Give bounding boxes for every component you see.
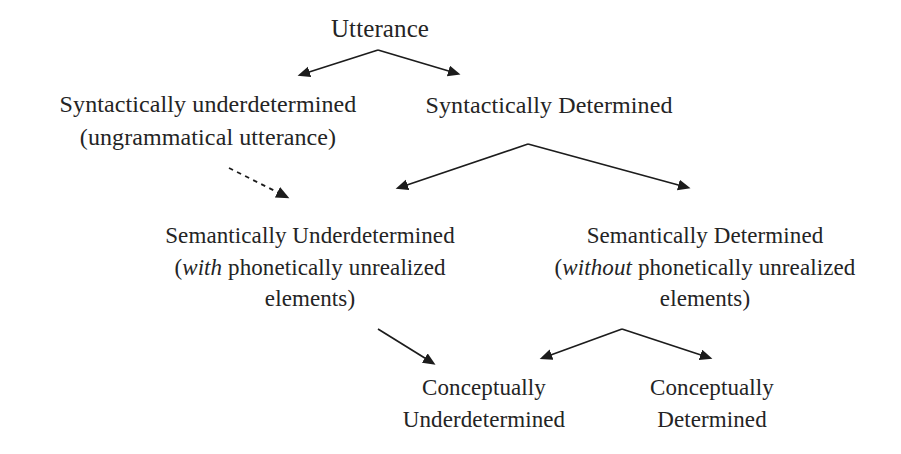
node-conceptually-underdetermined-line-2: Underdetermined — [384, 404, 584, 436]
node-utterance: Utterance — [310, 12, 450, 47]
node-semantically-underdetermined-line-2: (with phonetically unrealized — [140, 252, 480, 284]
diagram-canvas: Utterance Syntactically underdetermined … — [0, 0, 901, 454]
node-semantically-determined-line-2: (without phonetically unrealized — [535, 252, 875, 284]
node-syntactically-determined-line-1: Syntactically Determined — [398, 89, 700, 122]
node-syntactically-underdetermined: Syntactically underdetermined (ungrammat… — [18, 88, 398, 154]
node-conceptually-underdetermined-line-1: Conceptually — [384, 372, 584, 404]
node-semantically-underdetermined-line-1: Semantically Underdetermined — [140, 220, 480, 252]
edge-utterance-to-syntactically-underdetermined — [306, 50, 378, 73]
node-syntactically-underdetermined-line-2: (ungrammatical utterance) — [18, 121, 398, 154]
edge-syntactically-underdetermined-to-semantically-underdetermined — [229, 168, 281, 194]
edge-semantically-determined-to-conceptually-determined — [622, 329, 704, 356]
node-syntactically-determined: Syntactically Determined — [398, 89, 700, 122]
node-semantically-underdetermined-line-3: elements) — [140, 283, 480, 315]
emphasis-with: with — [182, 255, 222, 280]
node-semantically-underdetermined: Semantically Underdetermined (with phone… — [140, 220, 480, 315]
node-conceptually-underdetermined: Conceptually Underdetermined — [384, 372, 584, 435]
edge-syntactically-determined-to-semantically-underdetermined — [404, 144, 528, 186]
node-semantically-determined-line-1: Semantically Determined — [535, 220, 875, 252]
edge-semantically-underdetermined-to-conceptually-underdetermined — [378, 329, 428, 360]
node-semantically-determined-line-3: elements) — [535, 283, 875, 315]
line2-rest: phonetically unrealized — [632, 255, 855, 280]
node-conceptually-determined: Conceptually Determined — [612, 372, 812, 435]
node-utterance-line-1: Utterance — [310, 12, 450, 47]
edge-utterance-to-syntactically-determined — [378, 50, 452, 72]
edge-syntactically-determined-to-semantically-determined — [528, 144, 682, 186]
node-conceptually-determined-line-2: Determined — [612, 404, 812, 436]
node-semantically-determined: Semantically Determined (without phoneti… — [535, 220, 875, 315]
node-conceptually-determined-line-1: Conceptually — [612, 372, 812, 404]
line2-rest: phonetically unrealized — [222, 255, 445, 280]
node-syntactically-underdetermined-line-1: Syntactically underdetermined — [18, 88, 398, 121]
edge-semantically-determined-to-conceptually-underdetermined — [548, 329, 622, 356]
emphasis-without: without — [562, 255, 632, 280]
